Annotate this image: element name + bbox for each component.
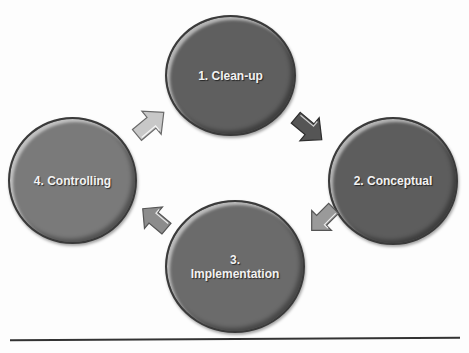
arrow-up-left-icon (134, 198, 176, 240)
node-implementation: 3. Implementation (165, 200, 305, 333)
arrow-down-right-icon (286, 108, 330, 148)
bottom-divider (10, 337, 460, 341)
node-conceptual: 2. Conceptual (328, 117, 458, 245)
arrow-down-left-icon (302, 198, 344, 240)
arrow-up-right-icon (126, 102, 174, 146)
node-label: 1. Clean-up (198, 69, 263, 83)
node-label: 2. Conceptual (354, 174, 433, 188)
node-label: 4. Controlling (34, 174, 111, 188)
cycle-diagram: 1. Clean-up 2. Conceptual 3. Implementat… (0, 0, 469, 353)
node-controlling: 4. Controlling (8, 117, 137, 244)
node-clean-up: 1. Clean-up (165, 15, 296, 136)
node-label: 3. Implementation (191, 253, 280, 281)
